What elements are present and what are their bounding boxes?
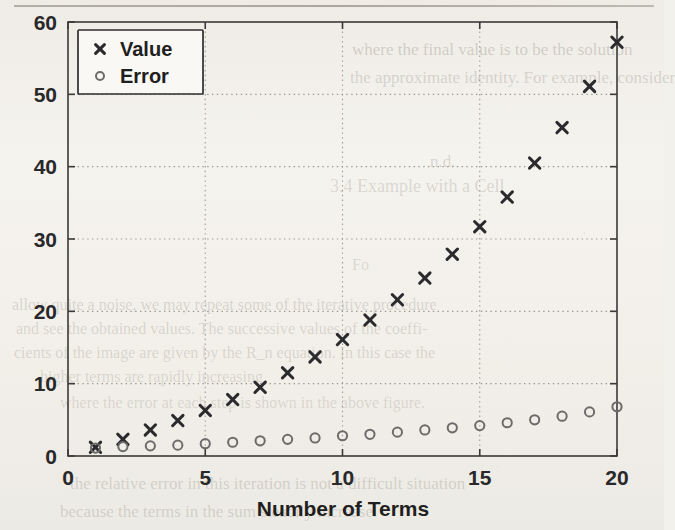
x-tick-label: 20 [605,466,628,489]
circle-marker-icon [365,430,374,439]
x-axis-title: Number of Terms [257,497,429,520]
cross-marker-icon [173,415,183,425]
circle-marker-icon [448,423,457,432]
cross-marker-icon [420,273,430,283]
x-tick-label: 15 [468,466,492,489]
y-tick-label: 30 [34,228,57,251]
cross-marker-icon [365,315,375,325]
y-tick-label: 0 [45,445,57,468]
x-tick-label: 0 [62,466,74,489]
circle-marker-icon [420,425,429,434]
cross-marker-icon [228,394,238,404]
circle-marker-icon [283,435,292,444]
cross-marker-icon [447,249,457,259]
circle-marker-icon [310,433,319,442]
cross-marker-icon [584,81,594,91]
circle-marker-icon [228,438,237,447]
cross-marker-icon [145,425,155,435]
circle-marker-icon [558,412,567,421]
cross-marker-icon [557,122,567,132]
circle-marker-icon [585,407,594,416]
circle-marker-icon [118,442,127,451]
circle-marker-icon [173,441,182,450]
circle-marker-icon [256,436,265,445]
x-tick-label: 10 [331,466,354,489]
y-tick-label: 20 [34,300,57,323]
series-error [91,402,622,452]
circle-marker-icon [146,441,155,450]
cross-marker-icon [392,295,402,305]
y-tick-label: 60 [34,11,57,34]
x-tick-label: 5 [199,466,211,489]
legend-label: Value [120,38,172,60]
series-value [90,37,622,452]
data-points [90,37,622,453]
circle-marker-icon [530,415,539,424]
circle-marker-icon [503,418,512,427]
cross-marker-icon [475,222,485,232]
cross-marker-icon [282,368,292,378]
y-tick-label: 50 [34,83,57,106]
legend-label: Error [120,65,169,87]
chart-legend: ValueError [78,30,203,94]
y-tick-label: 40 [34,155,57,178]
cross-marker-icon [502,192,512,202]
y-tick-label: 10 [34,372,57,395]
cross-marker-icon [337,334,347,344]
cross-marker-icon [310,352,320,362]
circle-marker-icon [393,428,402,437]
